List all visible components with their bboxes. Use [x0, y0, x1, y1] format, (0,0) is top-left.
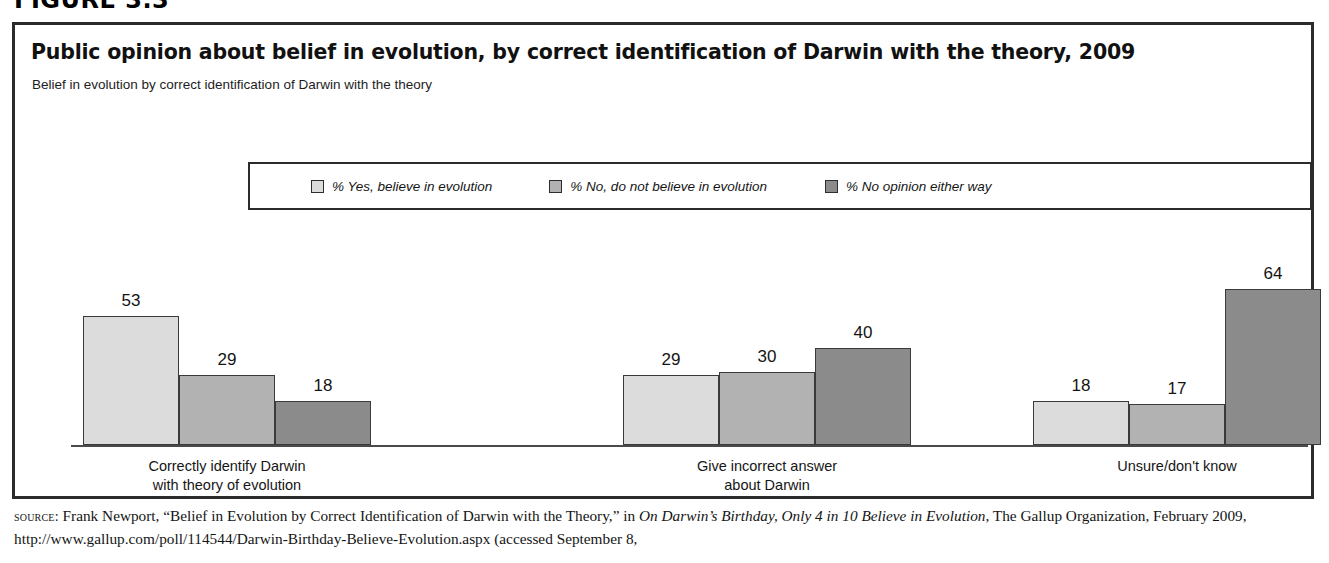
bar-value-label: 18 [275, 376, 371, 396]
bar [1129, 404, 1225, 445]
bar [719, 372, 815, 445]
figure-number: FIGURE 3.3 [14, 0, 169, 14]
source-note: source: Frank Newport, “Belief in Evolut… [14, 505, 1319, 549]
category-label: Give incorrect answerabout Darwin [573, 457, 961, 495]
bar-value-label: 18 [1033, 376, 1129, 396]
bar [1033, 401, 1129, 445]
figure-panel: Public opinion about belief in evolution… [12, 22, 1314, 499]
bar [623, 375, 719, 445]
bar [275, 401, 371, 445]
source-title-italic: On Darwin’s Birthday, Only 4 in 10 Belie… [639, 507, 985, 524]
bar [815, 348, 911, 445]
bar-value-label: 17 [1129, 379, 1225, 399]
bar-value-label: 64 [1225, 264, 1321, 284]
bar [1225, 289, 1321, 445]
category-label: Unsure/don't know [983, 457, 1329, 476]
source-text-part-1: Frank Newport, “Belief in Evolution by C… [59, 507, 639, 524]
bar [83, 316, 179, 445]
bar-value-label: 29 [179, 350, 275, 370]
bar-value-label: 29 [623, 350, 719, 370]
bar [179, 375, 275, 445]
x-axis-line [71, 445, 1308, 447]
bar-value-label: 53 [83, 291, 179, 311]
category-label: Correctly identify Darwinwith theory of … [33, 457, 421, 495]
source-label: source: [14, 509, 59, 524]
bar-value-label: 40 [815, 323, 911, 343]
bar-value-label: 30 [719, 347, 815, 367]
chart-plot-area: 532918293040181764 Correctly identify Da… [15, 25, 1317, 502]
